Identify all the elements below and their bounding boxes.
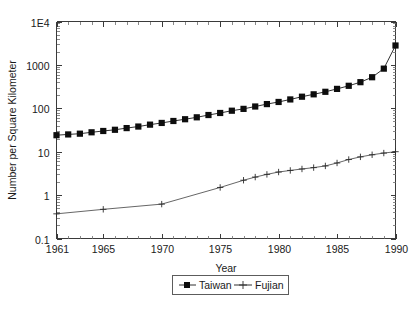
y-tick-label: 1	[44, 190, 50, 202]
chart-figure: 1E410001001010.1 19611965197019751980198…	[0, 0, 411, 309]
y-tick-label: 10	[38, 147, 50, 159]
x-axis-title: Year	[215, 262, 237, 274]
data-point-marker	[194, 114, 200, 120]
data-point-marker	[170, 118, 176, 124]
data-point-marker	[124, 125, 130, 131]
y-tick-label: 1000	[26, 60, 50, 72]
data-point-marker	[147, 122, 153, 128]
y-axis-title: Number per Square Kilometer	[6, 60, 18, 200]
data-point-marker	[229, 108, 235, 114]
data-point-marker	[392, 42, 398, 48]
data-point-marker	[299, 94, 305, 100]
data-point-marker	[346, 83, 352, 89]
data-point-marker	[381, 66, 387, 72]
y-tick-label: 1E4	[31, 17, 50, 29]
legend-label-taiwan: Taiwan	[199, 279, 232, 291]
data-point-marker	[65, 131, 71, 137]
x-tick-label: 1990	[385, 243, 409, 255]
chart-background	[0, 0, 411, 309]
data-point-marker	[264, 101, 270, 107]
data-point-marker	[217, 110, 223, 116]
x-tick-label: 1965	[92, 243, 116, 255]
x-tick-label: 1975	[209, 243, 233, 255]
x-tick-label: 1985	[326, 243, 350, 255]
data-point-marker	[205, 112, 211, 118]
data-point-marker	[112, 127, 118, 133]
data-point-marker	[159, 120, 165, 126]
data-point-marker	[311, 91, 317, 97]
data-point-marker	[182, 116, 188, 122]
data-point-marker	[369, 74, 375, 80]
data-point-marker	[88, 129, 94, 135]
data-point-marker	[53, 132, 59, 138]
data-point-marker	[287, 96, 293, 102]
data-point-marker	[252, 103, 258, 109]
x-tick-label: 1980	[268, 243, 292, 255]
x-tick-label: 1970	[151, 243, 175, 255]
chart-svg: 1E410001001010.1 19611965197019751980198…	[0, 0, 411, 309]
y-tick-label: 100	[32, 103, 50, 115]
data-point-marker	[357, 79, 363, 85]
legend: Taiwan Fujian	[173, 276, 289, 295]
data-point-marker	[240, 106, 246, 112]
legend-marker-square-icon	[184, 282, 190, 288]
data-point-marker	[322, 89, 328, 95]
data-point-marker	[276, 99, 282, 105]
legend-label-fujian: Fujian	[255, 279, 284, 291]
data-point-marker	[77, 131, 83, 137]
data-point-marker	[334, 86, 340, 92]
x-tick-label: 1961	[46, 243, 70, 255]
data-point-marker	[100, 128, 106, 134]
data-point-marker	[135, 123, 141, 129]
